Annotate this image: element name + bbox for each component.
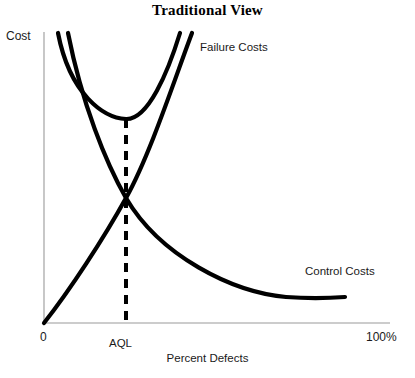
series-label-control-costs: Control Costs xyxy=(305,265,375,277)
curve-failure-costs xyxy=(44,33,192,323)
series-label-failure-costs: Failure Costs xyxy=(200,41,268,53)
x-axis-tick-max: 100% xyxy=(366,330,397,344)
x-axis-tick-min: 0 xyxy=(40,330,47,344)
chart-plot-area xyxy=(0,0,415,378)
y-axis-label: Cost xyxy=(6,29,31,43)
curve-control-costs xyxy=(68,33,345,298)
aql-marker-label: AQL xyxy=(109,337,132,349)
x-axis-label: Percent Defects xyxy=(0,352,415,364)
chart-container: Traditional View Cost Failure Costs Cont… xyxy=(0,0,415,378)
